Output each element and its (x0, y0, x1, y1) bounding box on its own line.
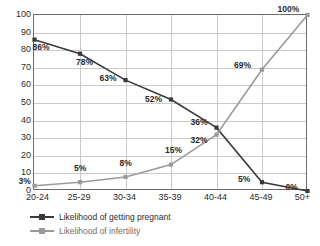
data-label: 8% (120, 159, 132, 168)
y-axis-tick-label: 40 (1, 116, 31, 125)
legend-marker-icon (30, 212, 54, 222)
legend-marker-icon (30, 226, 54, 236)
data-point-marker (260, 180, 264, 184)
data-point-marker (78, 52, 82, 56)
data-label: 63% (100, 74, 117, 83)
y-axis: 1009080706050403020100 (0, 14, 31, 190)
y-axis-tick-label: 30 (1, 133, 31, 142)
data-label: 52% (145, 95, 162, 104)
x-axis-tick-label: 35-39 (158, 192, 181, 203)
data-label: 5% (238, 175, 250, 184)
x-axis-tick-label: 45-49 (249, 192, 272, 203)
chart-container: 1009080706050403020100 86%78%63%52%36%5%… (0, 0, 320, 246)
data-label: 5% (74, 164, 86, 173)
plot-area: 86%78%63%52%36%5%0%3%5%8%15%32%69%100% (33, 14, 307, 190)
legend-label: Likelihood of getting pregnant (59, 212, 171, 222)
data-point-marker (169, 163, 173, 167)
y-axis-tick-label: 20 (1, 151, 31, 160)
data-label: 100% (278, 5, 300, 14)
data-point-marker (214, 133, 218, 137)
y-axis-tick-label: 70 (1, 63, 31, 72)
data-label: 86% (33, 43, 50, 52)
data-label: 78% (76, 58, 93, 67)
data-label: 32% (191, 136, 208, 145)
data-point-marker (260, 67, 264, 71)
data-point-marker (32, 184, 36, 188)
data-point-marker (169, 97, 173, 101)
x-axis-tick-label: 25-29 (67, 192, 90, 203)
x-axis-tick-label: 20-24 (26, 192, 49, 203)
data-point-marker (123, 78, 127, 82)
y-axis-tick-label: 90 (1, 28, 31, 37)
data-label: 36% (191, 118, 208, 127)
x-axis: 20-2425-2930-3435-3940-4445-4950+ (33, 192, 307, 206)
x-axis-tick-label: 50+ (295, 192, 310, 203)
y-axis-tick-label: 80 (1, 45, 31, 54)
y-axis-tick-label: 100 (1, 10, 31, 19)
chart-legend: Likelihood of getting pregnantLikelihood… (30, 210, 280, 238)
y-axis-tick-label: 50 (1, 98, 31, 107)
legend-label: Likelihood of infertility (59, 226, 140, 236)
data-label: 69% (234, 61, 251, 70)
x-axis-tick-label: 40-44 (204, 192, 227, 203)
data-label: 3% (19, 177, 31, 186)
data-point-marker (214, 126, 218, 130)
data-point-marker (305, 13, 309, 17)
data-label: 0% (286, 183, 298, 192)
data-point-marker (78, 180, 82, 184)
legend-item[interactable]: Likelihood of infertility (30, 224, 280, 238)
y-axis-tick-label: 60 (1, 80, 31, 89)
legend-item[interactable]: Likelihood of getting pregnant (30, 210, 280, 224)
data-label: 15% (165, 146, 182, 155)
x-axis-tick-label: 30-34 (113, 192, 136, 203)
data-point-marker (123, 175, 127, 179)
